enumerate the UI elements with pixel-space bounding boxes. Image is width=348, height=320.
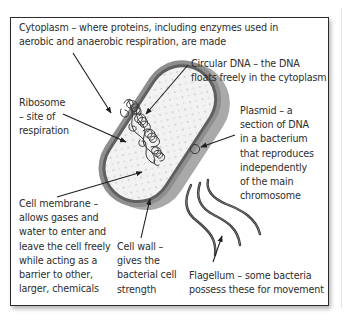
label-plasmid: Plasmid – a section of DNA in a bacteriu… xyxy=(240,104,314,203)
label-cell-membrane: Cell membrane – allows gases and water t… xyxy=(19,197,111,296)
label-circular-dna: Circular DNA – the DNA floats freely in … xyxy=(191,57,327,85)
label-ribosome: Ribosome – site of respiration xyxy=(19,96,69,139)
arrow-ribosome xyxy=(63,114,126,142)
label-cell-wall: Cell wall – gives the bacterial cell str… xyxy=(117,240,177,297)
arrow-cytoplasm xyxy=(73,53,111,113)
label-cytoplasm: Cytoplasm – where proteins, including en… xyxy=(19,21,278,49)
label-flagellum: Flagellum – some bacteria possess these … xyxy=(189,269,324,297)
